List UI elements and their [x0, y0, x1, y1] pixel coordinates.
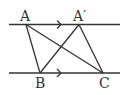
- point-label-B: B: [35, 75, 45, 91]
- point-label-A-prime: A′: [72, 8, 86, 24]
- point-label-A: A: [19, 8, 31, 24]
- point-label-C: C: [99, 75, 110, 91]
- parallel-lines-triangle-diagram: A A′ B C: [0, 0, 133, 95]
- segment-Aprime-B: [40, 25, 79, 74]
